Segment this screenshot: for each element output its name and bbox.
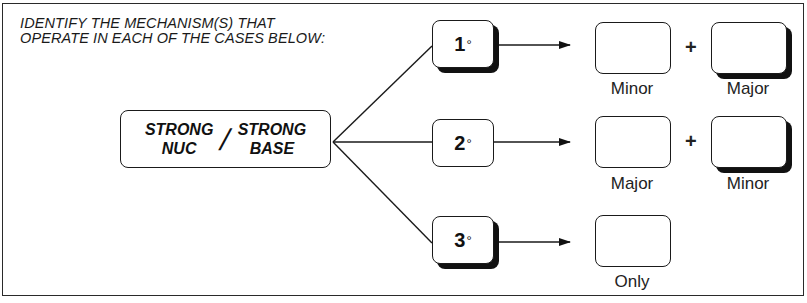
plus-sign: + [685, 130, 697, 153]
answer-label: Minor [587, 79, 677, 99]
answer-box-secondary-major[interactable] [595, 116, 671, 168]
degree-symbol: ° [466, 233, 471, 248]
answer-label: Minor [703, 174, 793, 194]
answer-box-primary-minor[interactable] [595, 22, 671, 74]
plus-sign: + [685, 36, 697, 59]
degree-symbol: ° [466, 37, 471, 52]
reagent-nuc-bottom: NUC [145, 139, 213, 158]
reagent-base-top: STRONG [238, 120, 306, 139]
reagent-nuc-top: STRONG [145, 120, 213, 139]
answer-box-secondary-minor[interactable] [711, 116, 787, 168]
reagent-box: STRONG NUC / STRONG BASE [120, 110, 331, 168]
case-secondary-box: 2° [432, 119, 494, 167]
reagent-separator: / [219, 130, 232, 149]
degree-symbol: ° [466, 136, 471, 151]
answer-label: Major [703, 79, 793, 99]
answer-label: Major [587, 174, 677, 194]
reagent-base-bottom: BASE [238, 139, 306, 158]
case-secondary-degree: 2 [454, 132, 465, 155]
answer-label: Only [587, 272, 677, 292]
case-primary-degree: 1 [454, 33, 465, 56]
answer-box-primary-major[interactable] [711, 22, 787, 74]
answer-box-tertiary-only[interactable] [595, 215, 671, 267]
case-primary-box: 1° [432, 20, 494, 68]
case-tertiary-degree: 3 [454, 229, 465, 252]
case-tertiary-box: 3° [432, 216, 494, 264]
